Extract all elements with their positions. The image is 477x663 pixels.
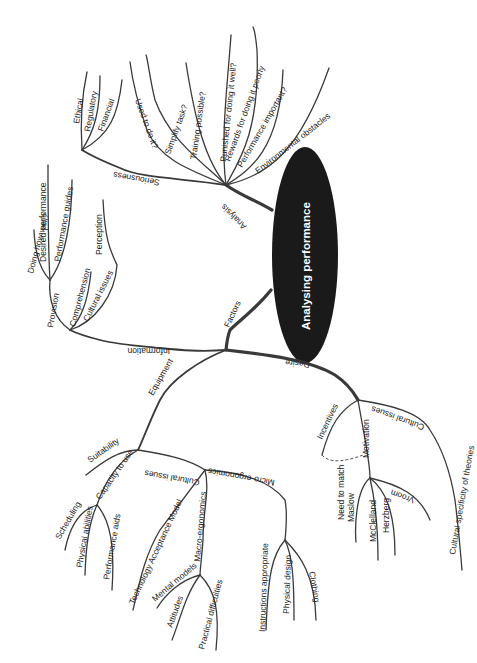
- leaf-physical-design: Physical design: [281, 554, 293, 614]
- leaf-herzberg: Herzberg: [381, 498, 391, 533]
- leaf-need-to-match: Need to match: [336, 464, 346, 520]
- leaf-technology-acceptance-model: Technology Acceptance Model: [127, 497, 185, 605]
- leaf-cultural-specificity: Cultural specificity of theories: [447, 445, 476, 556]
- leaf-incentives: Incentives: [315, 402, 340, 441]
- leaf-vroom: Vroom: [389, 488, 416, 506]
- need-to-match-link: [322, 455, 363, 461]
- factors-label: Factors: [222, 299, 243, 329]
- leaf-desired-performance: Desired performance: [38, 182, 48, 262]
- leaf-mcclelland: McClelland: [368, 500, 378, 542]
- analysis-label: Analysis: [219, 202, 248, 231]
- provision-label: Provision: [45, 292, 61, 328]
- leaf-clothing: Clothing: [307, 571, 322, 604]
- micro-ergonomics-label: Micro-ergonomics: [207, 466, 275, 488]
- leaf-scheduling: Scheduling: [53, 499, 83, 541]
- branch-factors: Factors Information Provision Doing how …: [25, 165, 476, 651]
- information-label: Information: [127, 346, 170, 356]
- macro-ergonomics-label: Macro-ergonomics: [192, 491, 208, 562]
- motivation-label: Motivation: [361, 419, 371, 458]
- center-label: Analysing performance: [300, 202, 312, 330]
- leaf-maslow: Maslow: [346, 492, 356, 522]
- leaf-performance-aids: Performance aids: [101, 513, 122, 580]
- leaf-perception: Perception: [94, 214, 104, 255]
- leaf-physical-abilities: Physical abilities: [74, 505, 95, 568]
- leaf-suitability: Suitability: [85, 435, 121, 464]
- leaf-performance-guides: Performance guides: [52, 186, 75, 263]
- cultural-issues-equipment: Cultural issues: [144, 468, 201, 488]
- equipment-label: Equipment: [146, 356, 175, 397]
- leaf-instructions-appropriate: Instructions appropriate: [257, 543, 270, 632]
- mind-map: Analysing performance Analysis Seriousne…: [0, 0, 477, 663]
- leaf-training-possible: Training possible?: [188, 91, 207, 161]
- center-node: Analysing performance: [272, 147, 338, 363]
